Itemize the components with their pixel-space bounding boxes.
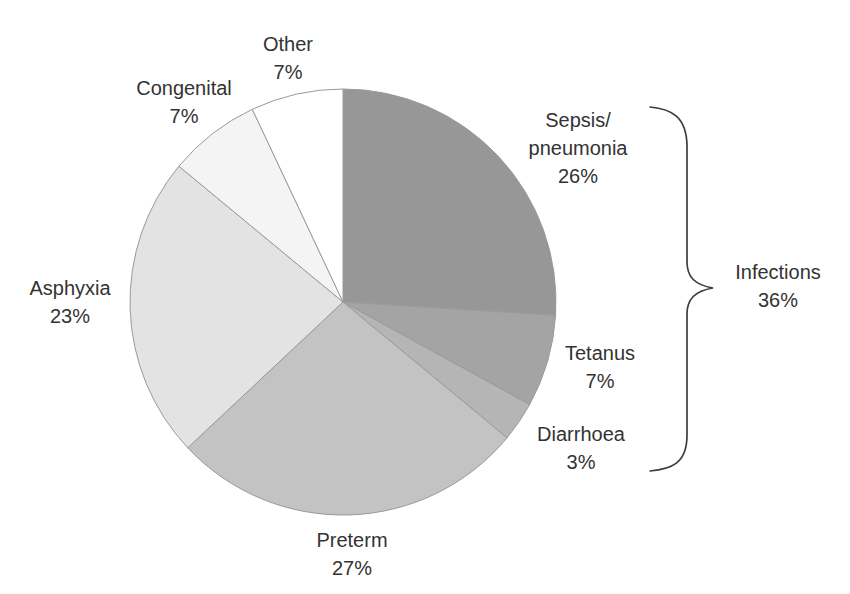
slice-label-tetanus-value: 7% bbox=[565, 367, 635, 395]
slice-label-sepsis-line1: Sepsis/ bbox=[529, 106, 628, 134]
slice-label-other: Other 7% bbox=[263, 30, 313, 86]
slice-label-sepsis-pneumonia: Sepsis/ pneumonia 26% bbox=[529, 106, 628, 190]
slice-label-diarrhoea-value: 3% bbox=[537, 448, 625, 476]
slice-label-other-value: 7% bbox=[263, 58, 313, 86]
infections-group-name: Infections bbox=[735, 258, 821, 286]
slice-label-congenital: Congenital 7% bbox=[136, 74, 232, 130]
slice-label-preterm-value: 27% bbox=[316, 554, 387, 582]
slice-label-asphyxia-name: Asphyxia bbox=[29, 274, 110, 302]
slice-label-tetanus: Tetanus 7% bbox=[565, 339, 635, 395]
slice-label-sepsis-value: 26% bbox=[529, 162, 628, 190]
slice-label-preterm: Preterm 27% bbox=[316, 526, 387, 582]
slice-label-tetanus-name: Tetanus bbox=[565, 339, 635, 367]
slice-label-congenital-value: 7% bbox=[136, 102, 232, 130]
infections-group-label: Infections 36% bbox=[735, 258, 821, 314]
slice-label-diarrhoea: Diarrhoea 3% bbox=[537, 420, 625, 476]
infections-group-value: 36% bbox=[735, 286, 821, 314]
slice-label-other-name: Other bbox=[263, 30, 313, 58]
slice-label-asphyxia: Asphyxia 23% bbox=[29, 274, 110, 330]
slice-label-preterm-name: Preterm bbox=[316, 526, 387, 554]
slice-label-congenital-name: Congenital bbox=[136, 74, 232, 102]
figure-canvas: Other 7% Congenital 7% Asphyxia 23% Seps… bbox=[0, 0, 850, 594]
pie-chart-svg bbox=[0, 0, 850, 594]
pie-slice-sepsis-pneumonia bbox=[343, 89, 556, 315]
pie-slices-group bbox=[130, 89, 556, 515]
slice-label-sepsis-line2: pneumonia bbox=[529, 134, 628, 162]
infections-brace bbox=[650, 107, 713, 471]
slice-label-asphyxia-value: 23% bbox=[29, 302, 110, 330]
slice-label-diarrhoea-name: Diarrhoea bbox=[537, 420, 625, 448]
